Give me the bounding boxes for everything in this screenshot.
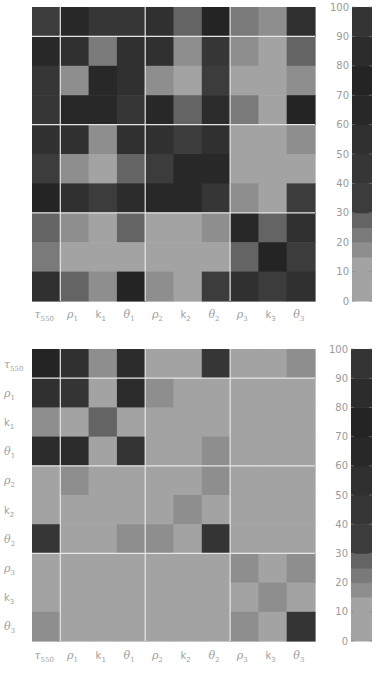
y-tick-label: ρ2 xyxy=(3,474,15,489)
heatmap-cell-1-r6-c3 xyxy=(117,183,146,213)
heatmap-cell-2-r1-c1 xyxy=(60,378,89,408)
heatmap-cell-2-r5-c9 xyxy=(287,495,316,525)
heatmap-cell-2-r9-c5 xyxy=(174,612,203,642)
heatmap-cell-2-r8-c7 xyxy=(230,583,259,613)
heatmap-cell-1-r4-c7 xyxy=(230,125,259,155)
heatmap-cell-1-r5-c7 xyxy=(230,154,259,184)
heatmap-cell-1-r7-c8 xyxy=(258,213,287,243)
heatmap-cell-1-r2-c5 xyxy=(174,66,203,96)
heatmap-cell-2-r1-c9 xyxy=(287,378,316,408)
heatmap-cell-1-r5-c9 xyxy=(287,154,316,184)
heatmap-cell-1-r6-c1 xyxy=(60,183,89,213)
heatmap-cell-2-r5-c7 xyxy=(230,495,259,525)
heatmap-cell-2-r5-c3 xyxy=(117,495,146,525)
colorbar-tick-label: 0 xyxy=(343,296,349,307)
heatmap-cell-2-r0-c0 xyxy=(32,349,61,379)
heatmap-cell-2-r0-c4 xyxy=(145,349,174,379)
colorbar-band xyxy=(351,524,372,554)
x-tick-label: ρ2 xyxy=(151,649,163,664)
x-tick-label: ρ3 xyxy=(236,308,248,323)
heatmap-cell-1-r5-c2 xyxy=(89,154,118,184)
heatmap-cell-2-r3-c5 xyxy=(174,437,203,467)
heatmap-cell-1-r2-c1 xyxy=(60,66,89,96)
y-tick-label: θ3 xyxy=(4,620,15,635)
x-tick-label: θ2 xyxy=(208,649,219,664)
heatmap-cell-1-r3-c9 xyxy=(287,95,316,125)
heatmap-cell-1-r6-c6 xyxy=(202,183,231,213)
heatmap-cell-2-r4-c7 xyxy=(230,466,259,496)
colorbar-band xyxy=(351,568,372,583)
heatmap-cell-2-r4-c1 xyxy=(60,466,89,496)
heatmap-cell-2-r9-c2 xyxy=(89,612,118,642)
heatmap-cell-1-r1-c8 xyxy=(258,36,287,66)
heatmap-cell-1-r9-c1 xyxy=(60,272,89,302)
heatmap-cell-2-r3-c8 xyxy=(258,437,287,467)
heatmap-cell-1-r4-c1 xyxy=(60,125,89,155)
heatmap-cell-2-r8-c3 xyxy=(117,583,146,613)
heatmap-cell-1-r1-c9 xyxy=(287,36,316,66)
colorbar-band xyxy=(352,125,372,155)
heatmap-cell-1-r1-c1 xyxy=(60,36,89,66)
heatmap-cell-1-r4-c2 xyxy=(89,125,118,155)
heatmap-cell-1-r2-c2 xyxy=(89,66,118,96)
colorbar-band xyxy=(351,437,372,467)
heatmap-cell-1-r9-c7 xyxy=(230,272,259,302)
colorbar-band xyxy=(352,66,372,96)
heatmap-cell-2-r4-c5 xyxy=(174,466,203,496)
heatmap-cell-1-r9-c2 xyxy=(89,272,118,302)
heatmap-cell-1-r8-c3 xyxy=(117,242,146,272)
colorbar-tick-label: 30 xyxy=(335,548,348,559)
heatmap-cell-2-r3-c2 xyxy=(89,437,118,467)
heatmap-cell-2-r0-c2 xyxy=(89,349,118,379)
heatmap-cell-1-r7-c6 xyxy=(202,213,231,243)
heatmap-cell-1-r4-c6 xyxy=(202,125,231,155)
heatmap-cell-1-r9-c0 xyxy=(32,272,61,302)
heatmap-cell-2-r3-c4 xyxy=(145,437,174,467)
heatmap-cell-2-r2-c0 xyxy=(32,407,61,437)
heatmap-cell-1-r8-c9 xyxy=(287,242,316,272)
colorbar-band xyxy=(351,553,372,568)
colorbar-band xyxy=(351,466,372,496)
heatmap-cell-2-r6-c3 xyxy=(117,524,146,554)
heatmap-cell-1-r2-c6 xyxy=(202,66,231,96)
heatmap-cell-1-r7-c2 xyxy=(89,213,118,243)
heatmap-cell-2-r3-c9 xyxy=(287,437,316,467)
colorbar-band xyxy=(352,242,372,257)
heatmap-cell-2-r9-c7 xyxy=(230,612,259,642)
heatmap-cell-2-r3-c3 xyxy=(117,437,146,467)
colorbar-tick-label: 100 xyxy=(329,344,348,355)
y-tick-label: θ2 xyxy=(4,533,15,548)
heatmap-cell-2-r8-c0 xyxy=(32,583,61,613)
colorbar-tick-label: 40 xyxy=(335,519,348,530)
heatmap-cell-1-r7-c5 xyxy=(174,213,203,243)
colorbar-tick-label: 10 xyxy=(336,266,349,277)
heatmap-cell-1-r0-c1 xyxy=(60,7,89,37)
heatmap-cell-1-r5-c6 xyxy=(202,154,231,184)
colorbar-tick-label: 80 xyxy=(335,402,348,413)
colorbar-band xyxy=(352,95,372,125)
heatmap-cell-1-r9-c8 xyxy=(258,272,287,302)
heatmap-cell-1-r1-c7 xyxy=(230,36,259,66)
heatmap-cell-2-r6-c1 xyxy=(60,524,89,554)
heatmap-cell-2-r2-c3 xyxy=(117,407,146,437)
heatmap-cell-1-r5-c4 xyxy=(145,154,174,184)
heatmap-cell-2-r5-c1 xyxy=(60,495,89,525)
colorbar-tick-label: 50 xyxy=(335,490,348,501)
colorbar-band xyxy=(352,154,372,184)
colorbar-band xyxy=(352,228,372,243)
heatmap-cell-1-r7-c0 xyxy=(32,213,61,243)
colorbar: 0102030405060708090100 xyxy=(330,2,372,307)
heatmap-cell-2-r0-c7 xyxy=(230,349,259,379)
heatmap-cell-2-r4-c6 xyxy=(202,466,231,496)
heatmap-cell-1-r7-c3 xyxy=(117,213,146,243)
heatmap-cell-2-r1-c6 xyxy=(202,378,231,408)
heatmap-cell-1-r3-c6 xyxy=(202,95,231,125)
x-tick-label: θ1 xyxy=(124,308,135,323)
heatmap-cell-1-r3-c7 xyxy=(230,95,259,125)
colorbar-tick-label: 80 xyxy=(336,60,349,71)
heatmap-cell-2-r8-c6 xyxy=(202,583,231,613)
heatmap-cell-1-r0-c6 xyxy=(202,7,231,37)
heatmap-cell-1-r8-c4 xyxy=(145,242,174,272)
colorbar-band xyxy=(351,349,372,379)
x-tick-label: θ3 xyxy=(293,308,304,323)
